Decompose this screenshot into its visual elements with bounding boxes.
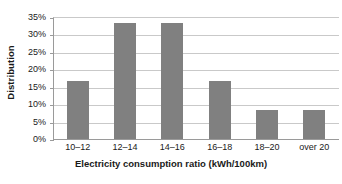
x-tick-label: 16–18 [196, 142, 243, 152]
bar [303, 110, 325, 139]
y-tick-label: 15% [28, 82, 46, 91]
y-tick-label: 20% [28, 65, 46, 74]
gridline [54, 140, 339, 141]
x-axis-tick-labels: 10–1212–1414–1616–1818–20over 20 [54, 142, 338, 156]
y-axis-title-label: Distribution [5, 45, 16, 100]
bar-chart: Distribution 0%5%10%15%20%25%30%35% 10–1… [0, 0, 342, 184]
y-axis-tick-labels: 0%5%10%15%20%25%30%35% [18, 8, 49, 148]
bars-layer [54, 17, 338, 139]
bar [114, 23, 136, 139]
x-axis-title: Electricity consumption ratio (kWh/100km… [0, 158, 342, 169]
y-tick-label: 35% [28, 13, 46, 22]
y-tick-label: 5% [33, 117, 46, 126]
bar [67, 81, 89, 139]
y-tickmark [50, 140, 54, 141]
x-tick-label: 14–16 [149, 142, 196, 152]
y-axis-title: Distribution [0, 0, 20, 145]
x-tick-label: 18–20 [243, 142, 290, 152]
x-tick-label: 10–12 [54, 142, 101, 152]
x-tick-label: 12–14 [101, 142, 148, 152]
bar [161, 23, 183, 139]
x-axis-line [53, 139, 339, 140]
bar [209, 81, 231, 139]
y-tick-label: 30% [28, 30, 46, 39]
y-tick-label: 10% [28, 100, 46, 109]
x-tick-label: over 20 [291, 142, 338, 152]
bar [256, 110, 278, 139]
y-tick-label: 25% [28, 47, 46, 56]
y-tick-label: 0% [33, 135, 46, 144]
